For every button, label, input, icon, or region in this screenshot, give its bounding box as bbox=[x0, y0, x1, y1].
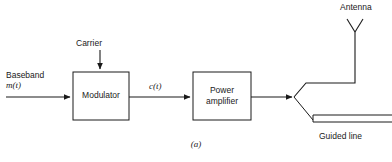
antenna-feed-line bbox=[294, 32, 355, 97]
modulated-signal-label: c(t) bbox=[149, 81, 162, 92]
carrier-label: Carrier bbox=[76, 38, 102, 49]
baseband-label: Baseband bbox=[6, 70, 44, 81]
modulator-block-label: Modulator bbox=[73, 90, 129, 101]
antenna-dipole-right-arm bbox=[355, 19, 363, 32]
block-diagram-figure: Baseband m(t) Carrier c(t) Antenna Guide… bbox=[0, 0, 392, 162]
baseband-signal-label: m(t) bbox=[6, 80, 21, 91]
power-amplifier-block-label: Power amplifier bbox=[193, 85, 251, 106]
guided-line-branch bbox=[294, 97, 313, 120]
antenna-label: Antenna bbox=[340, 2, 372, 13]
figure-caption: (a) bbox=[0, 139, 392, 150]
antenna-dipole-left-arm bbox=[347, 19, 355, 32]
